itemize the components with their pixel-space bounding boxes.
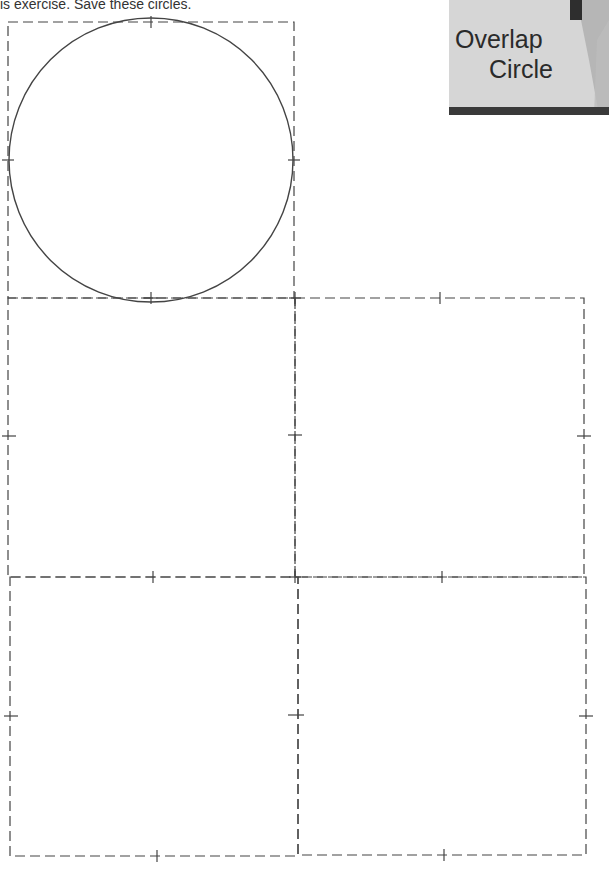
bottom-right-square	[298, 577, 586, 855]
bottom-left-square	[10, 577, 298, 856]
middle-right-square	[295, 298, 584, 577]
top-left-square	[8, 22, 294, 298]
middle-left-square	[8, 298, 295, 577]
cutout-circle	[9, 18, 293, 302]
registration-marks	[2, 16, 593, 862]
